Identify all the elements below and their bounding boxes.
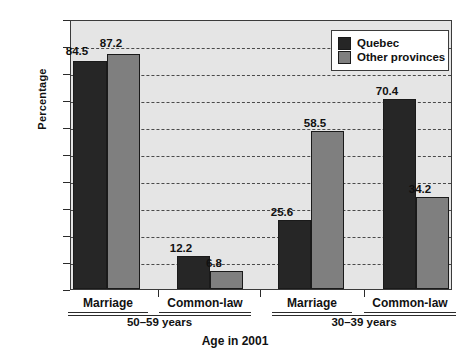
bar-other-commonlaw-30-39[interactable] [416,197,449,289]
y-tick-mark-70 [63,101,70,102]
y-axis-title: Percentage [36,9,48,189]
y-tick-mark-40 [63,182,70,183]
bar-value-other-commonlaw-50-59: 6.8 [194,258,234,270]
y-tick-mark-60 [63,128,70,129]
legend-item-other-provinces[interactable]: Other provinces [338,51,442,64]
x-category-label-commonlaw-30-39: Common-law [364,296,456,313]
x-group-label-30-39: 30–39 years [272,316,456,329]
y-tick-mark-20 [63,236,70,237]
y-tick-mark-50 [63,155,70,156]
x-axis-title: Age in 2001 [0,334,470,348]
x-tick-mark-2 [260,290,261,297]
bar-quebec-marriage-30-39[interactable] [278,220,311,289]
legend-item-quebec[interactable]: Quebec [338,37,442,50]
legend-swatch-other-provinces-icon [338,51,351,64]
legend-swatch-quebec-icon [338,37,351,50]
bar-value-other-marriage-50-59: 87.2 [89,38,133,50]
x-group-label-50-59: 50–59 years [68,316,251,329]
y-tick-mark-90 [63,47,70,48]
y-tick-mark-0 [63,290,70,291]
y-tick-mark-10 [63,263,70,264]
bar-quebec-marriage-50-59[interactable] [73,61,107,289]
x-category-label-commonlaw-50-59: Common-law [159,296,251,313]
bar-value-quebec-commonlaw-50-59: 12.2 [159,243,203,255]
y-tick-mark-100 [63,20,70,21]
plot-area: Quebec Other provinces [70,20,452,290]
bar-chart: Quebec Other provinces 84.5 87.2 12.2 6.… [0,0,470,355]
bar-value-other-marriage-30-39: 58.5 [293,118,337,130]
legend: Quebec Other provinces [331,30,449,71]
legend-label-other-provinces: Other provinces [357,51,445,64]
bar-other-commonlaw-50-59[interactable] [210,271,243,289]
y-tick-mark-80 [63,74,70,75]
legend-label-quebec: Quebec [357,37,399,50]
bar-value-quebec-marriage-30-39: 25.6 [260,207,304,219]
y-tick-mark-30 [63,209,70,210]
x-category-label-marriage-50-59: Marriage [68,296,148,313]
x-category-label-marriage-30-39: Marriage [272,296,352,313]
bar-other-marriage-30-39[interactable] [311,131,344,289]
bar-other-marriage-50-59[interactable] [107,54,140,289]
bar-value-quebec-commonlaw-30-39: 70.4 [365,86,409,98]
bar-value-other-commonlaw-30-39: 34.2 [398,184,442,196]
